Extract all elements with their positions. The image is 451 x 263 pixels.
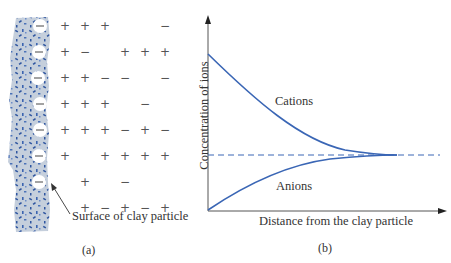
panel-b-concentration-chart: Concentration of ions Cations Anions Dis… [190, 0, 451, 263]
cation-sign: + [59, 46, 71, 58]
cation-sign: + [59, 98, 71, 110]
anion-sign: − [99, 72, 111, 84]
cation-sign: + [99, 20, 111, 32]
anions-label: Anions [276, 179, 312, 194]
x-axis-label: Distance from the clay particle [259, 214, 413, 229]
anion-sign: − [79, 46, 91, 58]
cation-sign: + [59, 72, 71, 84]
panel-a-clay-particle: +++−+−+++++−−−+++−+++−+−++++++−+−+−+ Sur… [0, 0, 190, 263]
cation-sign: + [99, 98, 111, 110]
anion-sign: − [119, 72, 131, 84]
cation-sign: + [79, 98, 91, 110]
anion-sign: − [139, 98, 151, 110]
cation-sign: + [59, 124, 71, 136]
cation-sign: + [139, 150, 151, 162]
cation-sign: + [59, 20, 71, 32]
surface-label: Surface of clay particle [72, 209, 188, 224]
cation-sign: + [159, 150, 171, 162]
cation-sign: + [119, 46, 131, 58]
cation-sign: + [79, 124, 91, 136]
y-axis-arrowhead [205, 15, 211, 24]
cation-sign: + [159, 46, 171, 58]
anion-sign: − [119, 176, 131, 188]
cation-sign: + [79, 20, 91, 32]
cation-sign: + [79, 72, 91, 84]
cation-sign: + [119, 150, 131, 162]
cation-sign: + [139, 46, 151, 58]
cation-sign: + [99, 150, 111, 162]
cation-sign: + [59, 150, 71, 162]
anion-sign: − [159, 72, 171, 84]
anion-sign: − [159, 124, 171, 136]
caption-a: (a) [82, 243, 95, 258]
cation-sign: + [79, 176, 91, 188]
cation-sign: + [139, 124, 151, 136]
anion-sign: − [159, 20, 171, 32]
anion-sign: − [119, 124, 131, 136]
surface-pointer-arrow [51, 183, 70, 214]
cation-sign: + [99, 124, 111, 136]
y-axis-label: Concentration of ions [197, 56, 212, 176]
x-axis-arrowhead [438, 208, 447, 214]
caption-b: (b) [318, 241, 332, 256]
cations-label: Cations [275, 94, 313, 109]
